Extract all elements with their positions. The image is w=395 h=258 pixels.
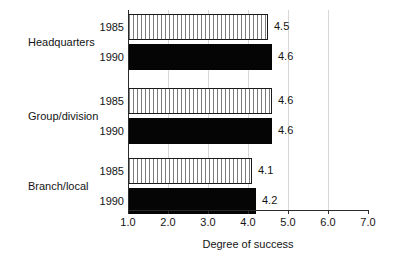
bar-chart: Headquarters Group/division Branch/local… (0, 0, 395, 258)
x-tick-1 (128, 210, 129, 214)
x-tick-6 (328, 210, 329, 214)
gridline-5 (288, 10, 289, 210)
category-label-group-division: Group/division (28, 110, 128, 122)
bar-value-headquarters-1985: 4.5 (274, 20, 289, 32)
bar-group-division-1990 (128, 118, 272, 144)
year-label-hq-1985: 1985 (84, 21, 124, 33)
year-label-bl-1990: 1990 (84, 195, 124, 207)
bar-headquarters-1985 (128, 14, 268, 40)
year-label-gd-1985: 1985 (84, 95, 124, 107)
gridline-6 (328, 10, 329, 210)
bar-value-group-division-1990: 4.6 (278, 124, 293, 136)
bar-value-group-division-1985: 4.6 (278, 94, 293, 106)
bar-value-headquarters-1990: 4.6 (278, 50, 293, 62)
plot-area: 4.5 4.6 4.6 4.6 4.1 4.2 1.0 2.0 3.0 4.0 … (128, 10, 368, 210)
x-tick-label-4: 4.0 (228, 216, 268, 229)
year-label-bl-1985: 1985 (84, 165, 124, 177)
year-label-gd-1990: 1990 (84, 125, 124, 137)
category-label-branch-local: Branch/local (28, 180, 128, 192)
y-axis-line (128, 10, 129, 210)
x-tick-label-2: 2.0 (148, 216, 188, 229)
x-tick-2 (168, 210, 169, 214)
bar-value-branch-local-1985: 4.1 (258, 164, 273, 176)
x-tick-5 (288, 210, 289, 214)
x-axis-title: Degree of success (128, 238, 368, 251)
x-tick-4 (248, 210, 249, 214)
x-tick-label-1: 1.0 (108, 216, 148, 229)
bar-branch-local-1985 (128, 158, 252, 184)
x-tick-label-7: 7.0 (348, 216, 388, 229)
x-tick-label-5: 5.0 (268, 216, 308, 229)
year-label-hq-1990: 1990 (84, 51, 124, 63)
bar-headquarters-1990 (128, 44, 272, 70)
bar-value-branch-local-1990: 4.2 (262, 194, 277, 206)
x-tick-7 (368, 210, 369, 214)
bar-group-division-1985 (128, 88, 272, 114)
x-tick-3 (208, 210, 209, 214)
x-tick-label-3: 3.0 (188, 216, 228, 229)
category-label-headquarters: Headquarters (28, 36, 128, 48)
x-tick-label-6: 6.0 (308, 216, 348, 229)
